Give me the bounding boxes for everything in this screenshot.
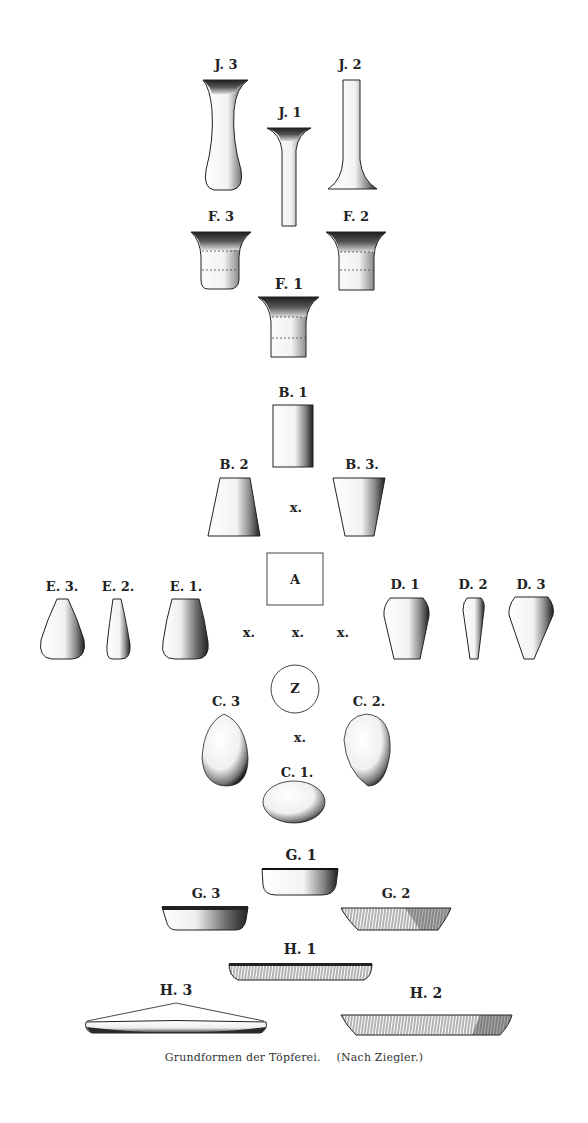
figure-caption: Grundformen der Töpferei. (Nach Ziegler.…	[159, 1051, 429, 1064]
label-f1: F. 1	[275, 277, 303, 291]
label-e2: E. 2.	[102, 580, 135, 593]
vessel-e2	[107, 599, 130, 659]
label-d1: D. 1	[391, 578, 420, 591]
vessel-j3	[203, 80, 248, 190]
label-a: A	[290, 573, 300, 586]
vessel-e1	[163, 599, 209, 659]
caption-source: (Nach Ziegler.)	[336, 1051, 423, 1064]
label-e3: E. 3.	[46, 580, 79, 593]
vessel-h1	[229, 964, 372, 980]
label-f3: F. 3	[208, 210, 234, 223]
vessel-j1	[267, 128, 311, 226]
marker-x-b: x.	[290, 501, 302, 514]
label-d3: D. 3	[517, 578, 546, 591]
label-j1: J. 1	[278, 106, 301, 119]
vessel-f1	[258, 297, 319, 357]
vessel-b1	[273, 405, 313, 467]
label-b1: B. 1	[278, 386, 307, 399]
label-e1: E. 1.	[170, 580, 203, 593]
vessel-b3	[333, 478, 385, 536]
vessel-d1	[384, 598, 429, 659]
vessel-h3	[86, 1003, 267, 1033]
label-j3: J. 3	[214, 58, 237, 71]
vessel-c3	[202, 714, 248, 786]
vessel-b2	[208, 478, 260, 536]
label-f2: F. 2	[343, 210, 369, 223]
label-c1: C. 1.	[281, 766, 314, 779]
vessel-f3	[191, 232, 251, 289]
label-c3: C. 3	[212, 695, 240, 708]
vessel-c2	[344, 714, 390, 786]
vessel-g3	[162, 907, 248, 930]
vessel-j2	[328, 80, 377, 189]
label-z: Z	[290, 682, 300, 695]
vessel-c1	[263, 781, 325, 823]
label-h1: H. 1	[284, 942, 317, 956]
label-h2: H. 2	[410, 986, 443, 1000]
label-b2: B. 2	[219, 458, 248, 471]
vessel-e3	[40, 599, 84, 659]
label-j2: J. 2	[338, 58, 361, 71]
label-g1: G. 1	[286, 848, 317, 862]
vessel-d2	[463, 598, 484, 659]
marker-x-center: x.	[292, 626, 304, 639]
marker-x-left: x.	[243, 626, 255, 639]
vessel-d3	[509, 597, 554, 659]
marker-x-right: x.	[337, 626, 349, 639]
label-h3: H. 3	[160, 983, 193, 997]
label-g3: G. 3	[192, 887, 221, 900]
label-g2: G. 2	[382, 887, 411, 900]
vessel-f2	[326, 232, 386, 290]
marker-x-c: x.	[294, 731, 306, 744]
label-b3: B. 3.	[345, 458, 379, 471]
label-d2: D. 2	[459, 578, 488, 591]
caption-title: Grundformen der Töpferei.	[165, 1051, 321, 1064]
vessel-g1	[262, 869, 338, 895]
label-c2: C. 2.	[353, 695, 386, 708]
